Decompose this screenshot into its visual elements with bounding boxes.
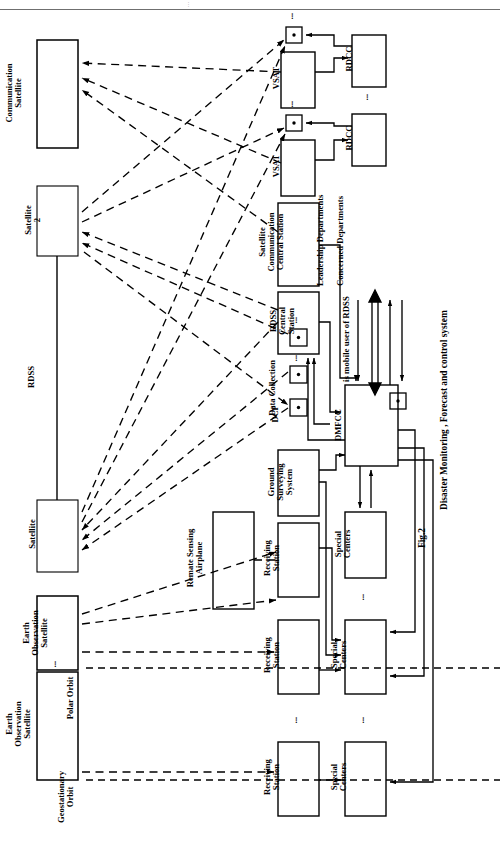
ellipsis-special-centers: ... <box>357 712 366 728</box>
link-sat1-rdssstation <box>82 322 278 530</box>
box-satellite-1 <box>37 500 78 572</box>
label-vsat-1: VSAT <box>272 52 281 104</box>
figure-number: Fig.2 <box>418 516 428 560</box>
label-rdss-link: RDSS <box>27 354 36 400</box>
box-receiving-station-2 <box>278 620 319 694</box>
label-communication-satellite: Communication Satellite <box>5 41 23 145</box>
label-special-centers-3: Special Centers <box>334 513 352 575</box>
dcp-1-dot <box>297 406 300 409</box>
ellipsis-receiving-stations: ... <box>290 712 299 728</box>
link-sat1-dcp2 <box>82 372 288 540</box>
label-ground-surveying-system: Ground Surveying System <box>267 451 294 513</box>
label-special-centers-2: Special Centers <box>330 620 348 690</box>
box-rdcc-1 <box>352 35 386 87</box>
ellipsis-mobile-user-2: ... <box>286 96 295 112</box>
link-sat1-mobileuser1 <box>82 46 285 512</box>
label-rdcc-1: RDCC <box>345 35 354 83</box>
label-rdcc-2: RDCC <box>345 114 354 162</box>
label-leadership-departments: Leadership Departments <box>316 160 325 286</box>
link-sat2-mobileuser1 <box>82 40 284 212</box>
box-rdcc-2 <box>352 114 386 166</box>
legend-symbol-dot <box>396 399 399 402</box>
label-satellite-1: Satellite <box>28 500 37 568</box>
ellipsis-earth-obs: ... <box>49 656 58 672</box>
box-receiving-station-1 <box>278 742 319 816</box>
label-dmfcc: DMFCC <box>334 388 343 462</box>
link-commsat-satcomstation <box>82 90 278 232</box>
ellipsis-rdcc: ... <box>361 89 370 105</box>
label-satellite-2: Satellite 2 <box>24 187 42 253</box>
link-dmfcc-rdss-feed-a <box>314 385 330 424</box>
label-earth-obs-sat-2: Earth Observation Satellite <box>22 598 49 668</box>
link-sat1-mobileuser2 <box>82 134 285 522</box>
arrow-leadership-head-down <box>369 383 381 395</box>
link-eos2-recv4 <box>82 600 276 624</box>
ellipsis-mobile-user-1: ... <box>286 8 295 24</box>
arrow-leadership-head-up <box>369 290 381 302</box>
box-communication-satellite <box>37 40 78 148</box>
label-receiving-station-3: Receiving Station <box>263 523 281 593</box>
box-special-centers-1 <box>345 742 386 816</box>
box-special-centers-2 <box>345 620 386 694</box>
terrestrial-links-layer <box>306 35 433 782</box>
link-dmfcc-special1 <box>390 460 433 782</box>
diagram-svg <box>0 0 500 850</box>
label-rdss-central-station: RDSS Central Station <box>269 292 296 350</box>
link-dmfcc-special2-b <box>390 448 424 676</box>
label-polar-orbit: Polar Orbit <box>66 668 75 728</box>
ellipsis-special-centers-2: ... <box>357 589 366 605</box>
figure-canvas: ⋮ <box>0 0 500 850</box>
label-data-collection: Data Collection <box>269 344 278 432</box>
link-sat2-mobileuser2 <box>82 128 284 222</box>
label-vsat-2: VSAT <box>272 140 281 192</box>
satellite-links-layer <box>82 40 288 772</box>
label-geostationary-orbit: Geostationary Orbit <box>57 754 75 840</box>
box-satellite-2 <box>37 186 78 256</box>
figure-caption: Disaster Monitoring , Forecast and contr… <box>440 250 450 510</box>
link-eos2-recv3 <box>82 552 276 614</box>
legend-text: is mobile user of RDSS <box>342 264 351 382</box>
label-earth-obs-sat-1: Earth Observation Satellite <box>5 672 32 776</box>
label-receiving-station-1: Receiving Station <box>263 742 281 812</box>
mobile-user-1-dot <box>292 33 295 36</box>
link-commsat-vsat2 <box>82 78 281 163</box>
dcp-2-dot <box>297 373 300 376</box>
label-satellite-comm-central-station: Satellite Communication Central Station <box>258 202 285 282</box>
box-receiving-station-3 <box>278 523 319 597</box>
box-vsat-2 <box>281 140 315 196</box>
label-special-centers-1: Special Centers <box>330 742 348 812</box>
label-remote-sensing-airplane: Remate Sensing Airplane <box>186 511 204 605</box>
ellipsis-dcp-lower: ... <box>290 350 299 366</box>
link-sat2-rdssstation <box>82 232 278 310</box>
mobile-user-2-dot <box>292 121 295 124</box>
box-remote-sensing-airplane <box>213 512 254 609</box>
dcp-3-dot <box>297 336 300 339</box>
label-receiving-station-2: Receiving Station <box>263 620 281 690</box>
